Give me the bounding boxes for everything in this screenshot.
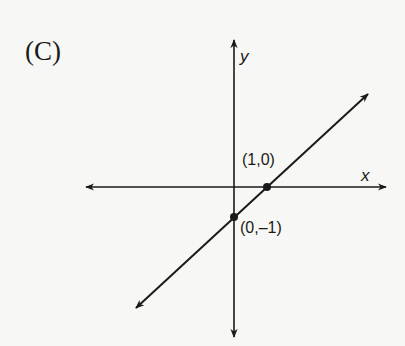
point-1-0 — [263, 183, 271, 191]
coordinate-plane: (C) y x (1,0) (0,–1) — [0, 0, 405, 346]
y-axis-label: y — [239, 47, 250, 66]
graph-line — [136, 94, 368, 308]
point-label-1-0: (1,0) — [242, 151, 275, 168]
choice-label-text: (C) — [25, 36, 61, 66]
choice-label: (C) — [25, 36, 61, 66]
x-axis-label: x — [360, 166, 370, 185]
point-0-neg1 — [230, 213, 238, 221]
point-label-0-neg1: (0,–1) — [240, 219, 282, 236]
